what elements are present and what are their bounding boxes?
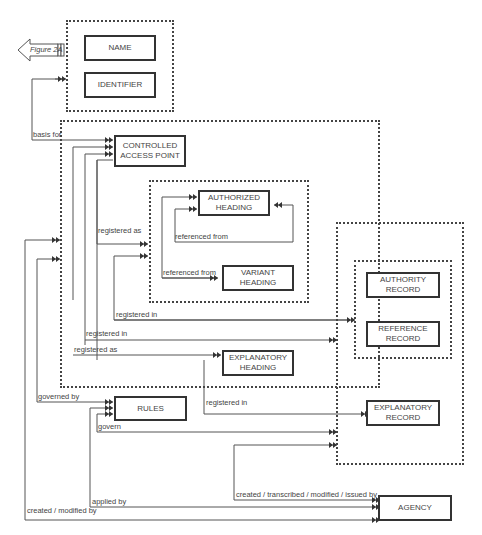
label-governed-by: governed by (38, 392, 79, 401)
authority-record-entity[interactable]: AUTHORITY RECORD (366, 272, 440, 298)
rules-entity[interactable]: RULES (114, 396, 187, 421)
label-referenced-from-2: referenced from (163, 268, 216, 277)
identifier-entity[interactable]: IDENTIFIER (84, 72, 156, 98)
controlled-access-point-entity[interactable]: CONTROLLED ACCESS POINT (114, 135, 186, 167)
reference-record-entity[interactable]: REFERENCE RECORD (366, 321, 440, 347)
label-created-modified-by: created / modified by (27, 506, 97, 515)
agency-entity[interactable]: AGENCY (378, 495, 452, 521)
label-registered-as-1: registered as (98, 226, 141, 235)
label-registered-as-2: registered as (74, 345, 117, 354)
explanatory-heading-entity[interactable]: EXPLANATORY HEADING (222, 350, 294, 376)
figure-2a-label[interactable]: Figure 2A (30, 45, 63, 54)
label-referenced-from-1: referenced from (175, 232, 228, 241)
label-registered-in-1: registered in (116, 310, 157, 319)
explanatory-record-entity[interactable]: EXPLANATORY RECORD (366, 400, 440, 426)
label-created-transcribed: created / transcribed / modified / issue… (236, 490, 377, 499)
label-applied-by: applied by (92, 497, 126, 506)
label-registered-in-3: registered in (206, 398, 247, 407)
label-registered-in-2: registered in (86, 329, 127, 338)
label-govern: govern (98, 422, 121, 431)
name-entity[interactable]: NAME (84, 35, 156, 61)
label-basis-for: basis for (33, 130, 61, 139)
authorized-heading-entity[interactable]: AUTHORIZED HEADING (198, 190, 270, 216)
variant-heading-entity[interactable]: VARIANT HEADING (222, 265, 294, 291)
name-identifier-group (66, 20, 174, 112)
